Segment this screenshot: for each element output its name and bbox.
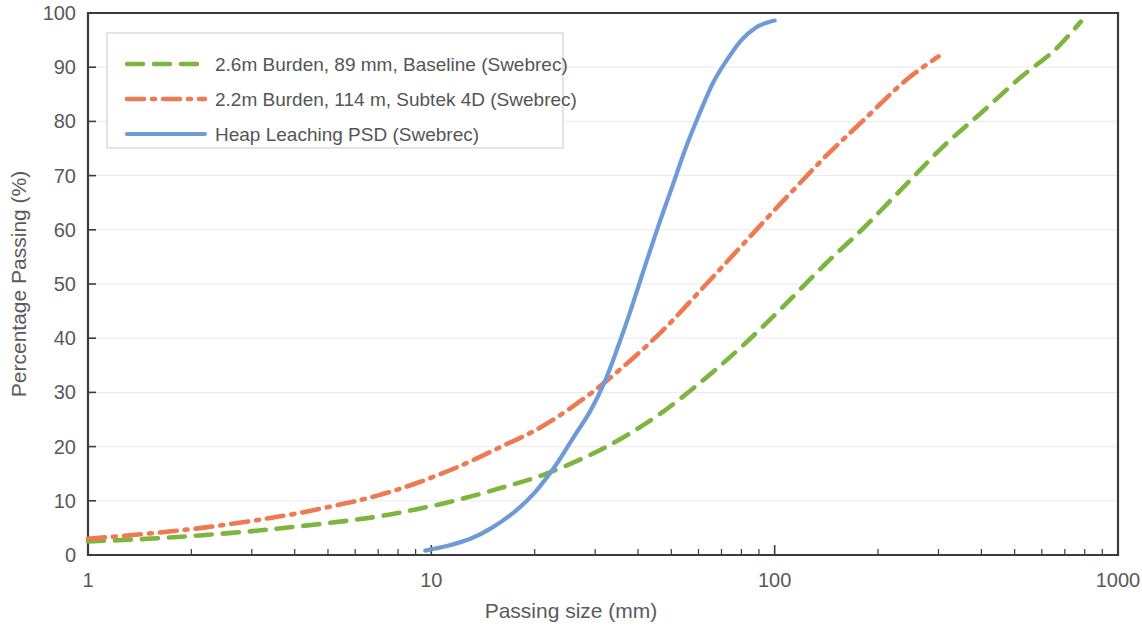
y-tick-label: 30 xyxy=(54,381,76,403)
legend: 2.6m Burden, 89 mm, Baseline (Swebrec)2.… xyxy=(107,33,577,148)
y-tick-label: 80 xyxy=(54,110,76,132)
y-axis-ticks xyxy=(88,13,96,555)
y-tick-label: 40 xyxy=(54,327,76,349)
chart-container: 0102030405060708090100 1101001000 2.6m B… xyxy=(0,0,1142,629)
y-axis-title: Percentage Passing (%) xyxy=(7,171,30,397)
x-tick-label: 100 xyxy=(758,569,791,591)
y-tick-label: 90 xyxy=(54,56,76,78)
x-tick-label: 1000 xyxy=(1096,569,1141,591)
x-axis-tick-labels: 1101001000 xyxy=(82,569,1140,591)
y-tick-label: 70 xyxy=(54,165,76,187)
y-tick-label: 50 xyxy=(54,273,76,295)
y-tick-label: 60 xyxy=(54,219,76,241)
y-axis-tick-labels: 0102030405060708090100 xyxy=(43,2,76,566)
y-tick-label: 20 xyxy=(54,436,76,458)
x-axis-ticks xyxy=(88,545,1118,555)
x-tick-label: 10 xyxy=(420,569,442,591)
legend-label-0: 2.6m Burden, 89 mm, Baseline (Swebrec) xyxy=(215,54,568,75)
y-tick-label: 10 xyxy=(54,490,76,512)
psd-chart: 0102030405060708090100 1101001000 2.6m B… xyxy=(0,0,1142,629)
legend-label-1: 2.2m Burden, 114 m, Subtek 4D (Swebrec) xyxy=(215,89,577,110)
y-tick-label: 0 xyxy=(65,544,76,566)
legend-label-2: Heap Leaching PSD (Swebrec) xyxy=(215,124,479,145)
x-tick-label: 1 xyxy=(82,569,93,591)
x-axis-title: Passing size (mm) xyxy=(485,599,658,622)
y-tick-label: 100 xyxy=(43,2,76,24)
